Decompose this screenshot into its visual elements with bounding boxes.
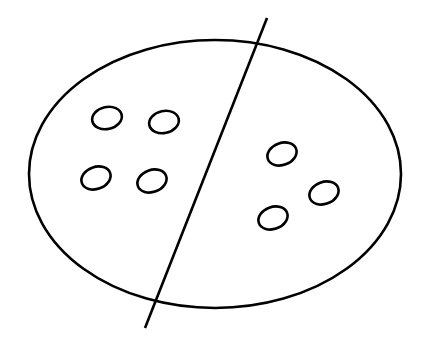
- left-oval-2: [147, 108, 181, 136]
- right-oval-3: [255, 203, 291, 234]
- left-group: [78, 104, 181, 196]
- left-oval-3: [78, 163, 114, 194]
- right-oval-2: [306, 178, 342, 209]
- left-oval-4: [134, 166, 170, 197]
- right-oval-1: [264, 139, 300, 170]
- left-oval-1: [90, 104, 124, 132]
- right-group: [255, 139, 342, 234]
- diagram-canvas: [0, 0, 425, 355]
